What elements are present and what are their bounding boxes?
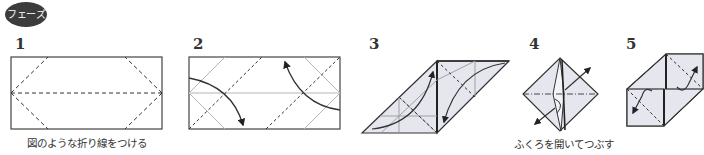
step-3-diagram xyxy=(362,61,509,133)
step-5-diagram xyxy=(627,54,703,126)
step-4-diagram xyxy=(523,58,598,131)
step-4-caption: ふくろを開いてつぶす xyxy=(514,139,614,150)
step-2-diagram xyxy=(189,57,340,129)
step-1-caption: 図のような折り線をつける xyxy=(27,138,147,149)
origami-diagrams xyxy=(0,0,704,155)
step-1-diagram xyxy=(11,57,162,129)
